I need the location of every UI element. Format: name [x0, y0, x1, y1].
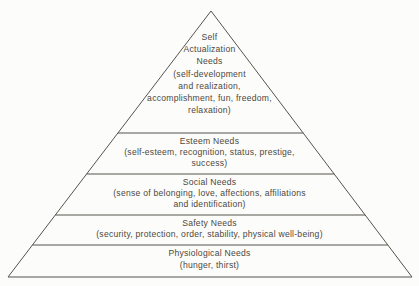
- level-social-needs: Social Needs (sense of belonging, love, …: [0, 177, 419, 211]
- level-text-line: Social Needs: [0, 177, 419, 188]
- level-text-line: (security, protection, order, stability,…: [0, 229, 419, 240]
- needs-pyramid-diagram: Self Actualization Needs (self-developme…: [0, 0, 419, 286]
- level-text-line: success): [0, 158, 419, 169]
- level-text-line: (sense of belonging, love, affections, a…: [0, 188, 419, 199]
- level-self-actualization-needs: Self Actualization Needs (self-developme…: [0, 31, 419, 116]
- level-text-line: Esteem Needs: [0, 136, 419, 147]
- level-text-line: Needs: [0, 55, 419, 67]
- level-text-line: Self: [0, 31, 419, 43]
- level-text-line: (self-development: [0, 68, 419, 80]
- level-physiological-needs: Physiological Needs (hunger, thirst): [0, 248, 419, 271]
- level-text-line: and realization,: [0, 80, 419, 92]
- level-text-line: Physiological Needs: [0, 248, 419, 260]
- level-esteem-needs: Esteem Needs (self-esteem, recognition, …: [0, 136, 419, 170]
- level-text-line: relaxation): [0, 104, 419, 116]
- level-text-line: Safety Needs: [0, 218, 419, 229]
- level-safety-needs: Safety Needs (security, protection, orde…: [0, 218, 419, 240]
- level-text-line: and identification): [0, 199, 419, 210]
- level-text-line: (self-esteem, recognition, status, prest…: [0, 147, 419, 158]
- level-text-line: accomplishment, fun, freedom,: [0, 92, 419, 104]
- level-text-line: (hunger, thirst): [0, 260, 419, 272]
- level-text-line: Actualization: [0, 43, 419, 55]
